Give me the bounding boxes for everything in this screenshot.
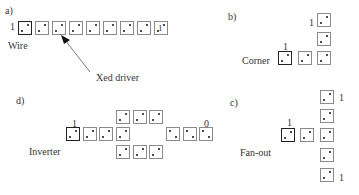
inverter-cell	[149, 145, 163, 159]
inverter-cell	[166, 127, 180, 141]
inverter-name-label: Inverter	[29, 147, 61, 157]
inverter-cell	[116, 127, 130, 141]
fanout-cell	[320, 109, 334, 123]
fanout-name-label: Fan-out	[240, 148, 271, 158]
inverter-cell	[83, 127, 97, 141]
corner-cell	[317, 32, 331, 46]
fanout-cell	[320, 128, 334, 142]
xed-driver-annotation: Xed driver	[96, 73, 139, 83]
corner-name-label: Corner	[242, 56, 270, 66]
inverter-cell	[183, 127, 197, 141]
corner-cell	[298, 51, 312, 65]
driver-cell	[66, 127, 80, 141]
inverter-cell	[116, 145, 130, 159]
inverter-cell	[116, 110, 130, 124]
inverter-cell	[99, 127, 113, 141]
panel-b-tag: b)	[228, 12, 236, 22]
fanout-cell	[300, 128, 314, 142]
inverter-cell	[199, 127, 213, 141]
panel-c-tag: c)	[230, 98, 238, 108]
corner-cell	[317, 51, 331, 65]
driver-cell	[281, 128, 295, 142]
inverter-cell	[133, 145, 147, 159]
fanout-input-label: 1	[287, 118, 292, 128]
corner-output-label: 1	[309, 18, 314, 28]
inverter-cell	[149, 110, 163, 124]
fanout-cell	[320, 168, 334, 182]
inverter-cell	[133, 110, 147, 124]
panel-d-tag: d)	[16, 96, 24, 106]
fanout-cell	[320, 148, 334, 162]
arrow-icon	[0, 0, 359, 195]
driver-cell	[278, 51, 292, 65]
fanout-top-output-label: 1	[339, 93, 344, 103]
fanout-cell	[320, 90, 334, 104]
corner-cell	[317, 13, 331, 27]
fanout-bottom-output-label: 1	[339, 173, 344, 183]
